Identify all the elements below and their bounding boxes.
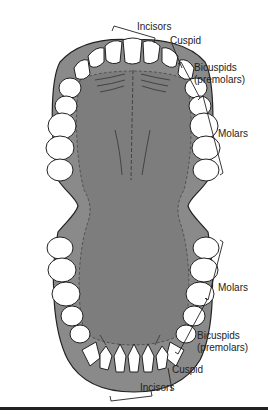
upper-incisor	[123, 38, 142, 64]
lower-bicuspid	[61, 306, 83, 326]
bottom-rule	[0, 407, 268, 410]
label-lower-bicuspids: Bicuspids	[197, 330, 240, 341]
label-upper-premolars-text: (premolars)	[194, 74, 245, 85]
upper-molar	[48, 113, 76, 139]
upper-molar	[46, 136, 74, 160]
upper-incisor	[143, 41, 160, 64]
label-upper-molars: Molars	[218, 128, 248, 139]
label-upper-bicuspids: Bicuspids	[194, 62, 237, 73]
lower-molar	[193, 237, 219, 259]
upper-molar	[193, 159, 219, 181]
label-lower-molars: Molars	[218, 282, 248, 293]
label-lower-cuspid: Cuspid	[172, 364, 203, 375]
label-upper-cuspid: Cuspid	[170, 35, 201, 46]
inner-palate	[77, 71, 192, 345]
upper-bicuspid	[59, 78, 81, 98]
lower-molar	[52, 282, 80, 306]
upper-incisor	[105, 41, 122, 64]
upper-molar	[47, 159, 73, 181]
lower-molar	[48, 258, 76, 282]
lower-molar	[47, 237, 73, 259]
label-lower-premolars: (premolars)	[197, 342, 248, 353]
upper-molar	[190, 113, 218, 139]
lower-bicuspid	[70, 325, 90, 343]
label-lower-incisors: Incisors	[140, 382, 174, 393]
lower-bicuspid	[176, 325, 196, 343]
label-upper-incisors: Incisors	[137, 21, 171, 32]
upper-molar	[192, 136, 220, 160]
